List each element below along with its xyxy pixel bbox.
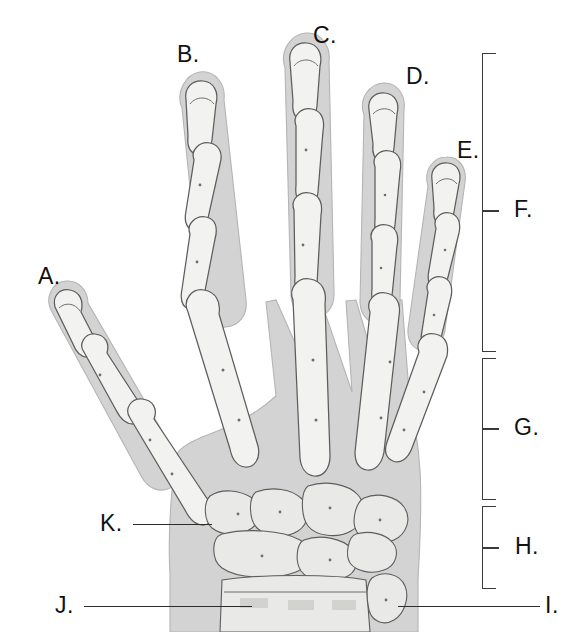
label-k: K. bbox=[100, 512, 123, 535]
bracket-tick-f bbox=[482, 210, 499, 212]
thumb-bones bbox=[54, 290, 213, 525]
label-h: H. bbox=[515, 535, 539, 558]
label-f: F. bbox=[514, 198, 533, 221]
label-e: E. bbox=[457, 139, 480, 162]
label-d: D. bbox=[406, 65, 430, 88]
leader-line-i bbox=[398, 606, 540, 607]
label-i: I. bbox=[545, 594, 559, 617]
bracket-tick-g bbox=[482, 428, 499, 430]
leader-line-k bbox=[133, 524, 212, 525]
label-b: B. bbox=[177, 43, 200, 66]
label-a: A. bbox=[38, 265, 61, 288]
label-c: C. bbox=[313, 24, 337, 47]
bracket-tick-h bbox=[482, 547, 499, 549]
label-g: G. bbox=[514, 416, 539, 439]
label-j: J. bbox=[55, 594, 74, 617]
leader-line-j bbox=[84, 606, 252, 607]
hand-bones-figure: A. B. C. D. E. F. G. H. I. J. K. bbox=[0, 0, 574, 632]
bracket-phalanges bbox=[482, 53, 496, 352]
